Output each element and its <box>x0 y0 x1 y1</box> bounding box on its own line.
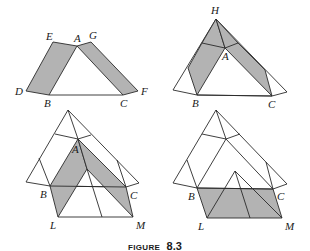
joint-line <box>202 134 240 139</box>
label-l: L <box>197 220 204 232</box>
caption-word: FIGURE <box>128 243 160 251</box>
label-e: E <box>45 30 53 42</box>
line-h-a <box>68 110 78 139</box>
a-to-b <box>197 139 226 188</box>
label-b: B <box>40 188 47 200</box>
parallelogram-abde <box>26 42 77 95</box>
sheared-right-region <box>78 139 133 217</box>
segment-bc <box>197 95 272 96</box>
figure-canvas: E A G D B C F H A B C A B C L M <box>0 0 310 251</box>
label-c: C <box>120 97 128 109</box>
label-b: B <box>188 190 195 202</box>
label-c: C <box>130 189 138 201</box>
line-h-a <box>216 110 226 139</box>
label-m: M <box>135 219 146 231</box>
label-d: D <box>14 85 23 97</box>
label-a: A <box>221 50 229 62</box>
label-f: F <box>140 85 148 97</box>
left-inner <box>187 160 197 188</box>
left-inner <box>39 158 50 186</box>
a-to-c <box>226 139 273 189</box>
label-a: A <box>73 32 81 44</box>
panel-bottom-left: A B C L M <box>26 110 146 231</box>
label-m: M <box>284 220 295 232</box>
panel-top-left: E A G D B C F <box>14 29 148 109</box>
label-c: C <box>268 98 276 110</box>
panel-top-right: H A B C <box>173 4 287 110</box>
label-l: L <box>49 219 56 231</box>
panel-bottom-right: B C L M <box>173 110 295 232</box>
label-b: B <box>192 97 199 109</box>
parallelogram-acfg <box>77 42 138 95</box>
label-b: B <box>44 97 51 109</box>
caption-number: 8.3 <box>167 240 182 251</box>
figure-caption: FIGURE 8.3 <box>0 236 310 251</box>
outer-outline <box>173 19 287 96</box>
label-h: H <box>210 4 220 16</box>
label-g: G <box>89 29 97 41</box>
label-c: C <box>277 190 285 202</box>
label-a: A <box>71 143 79 155</box>
joint-line <box>55 134 91 139</box>
